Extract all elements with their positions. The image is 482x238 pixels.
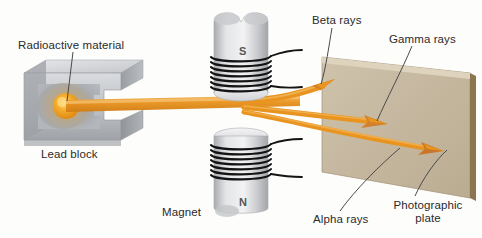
- label-photographic-plate: Photographic plate: [385, 199, 471, 225]
- label-lead-block: Lead block: [41, 148, 98, 161]
- photographic-plate: [322, 57, 476, 201]
- label-photographic-plate-line1: Photographic: [394, 199, 463, 211]
- label-radioactive-material: Radioactive material: [18, 39, 124, 52]
- label-beta-rays: Beta rays: [312, 14, 361, 27]
- magnet-bottom: [211, 128, 302, 217]
- magnet-pole-label-north: N: [239, 196, 247, 208]
- label-photographic-plate-line2: plate: [415, 212, 440, 224]
- magnet-pole-label-south: S: [239, 45, 247, 57]
- magnet-top: [211, 13, 302, 101]
- radioactivity-diagram: Radioactive material Lead block Magnet B…: [0, 0, 482, 238]
- label-alpha-rays: Alpha rays: [313, 213, 368, 226]
- label-magnet: Magnet: [162, 206, 201, 219]
- label-gamma-rays: Gamma rays: [389, 33, 456, 46]
